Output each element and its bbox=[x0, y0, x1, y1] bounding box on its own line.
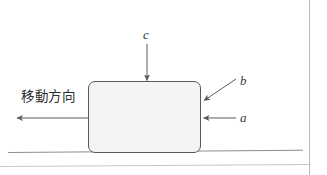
figure-canvas: c b a 移動方向 bbox=[0, 0, 327, 175]
label-b: b bbox=[240, 74, 247, 87]
arrow-b bbox=[204, 79, 236, 101]
label-direction-of-motion: 移動方向 bbox=[21, 90, 75, 104]
label-c: c bbox=[143, 28, 149, 41]
label-a: a bbox=[240, 111, 247, 124]
